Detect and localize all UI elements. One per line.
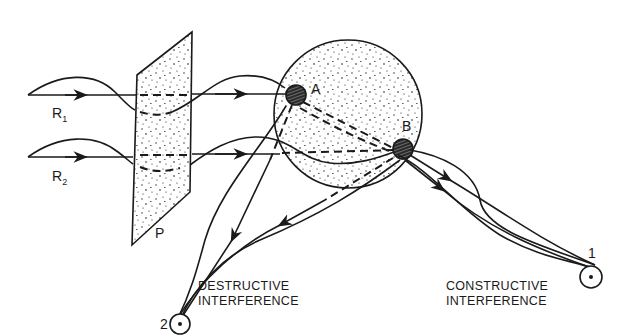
plane-p-label: P (155, 225, 164, 241)
interference-diagram: R1 R2 P A B 2 DESTRUCTIVE INTERFERENCE 1… (0, 0, 621, 336)
sphere (274, 40, 422, 188)
detector-1 (580, 266, 602, 288)
scatterer-a-label: A (311, 81, 321, 97)
destructive-caption-line2: INTERFERENCE (198, 294, 299, 308)
plane-p (132, 32, 192, 245)
detector-1-label: 1 (588, 245, 596, 261)
destructive-caption-line1: DESTRUCTIVE (198, 279, 290, 293)
ray-r2-label: R2 (52, 168, 67, 187)
scatterer-b-label: B (402, 118, 411, 134)
scatterer-b (393, 139, 413, 159)
detector-2-label: 2 (160, 316, 168, 332)
paths-to-detector-1 (398, 150, 595, 268)
detector-2 (170, 314, 190, 334)
constructive-caption-line1: CONSTRUCTIVE (446, 279, 548, 293)
constructive-caption-line2: INTERFERENCE (446, 294, 547, 308)
ray-r1-label: R1 (52, 105, 67, 124)
